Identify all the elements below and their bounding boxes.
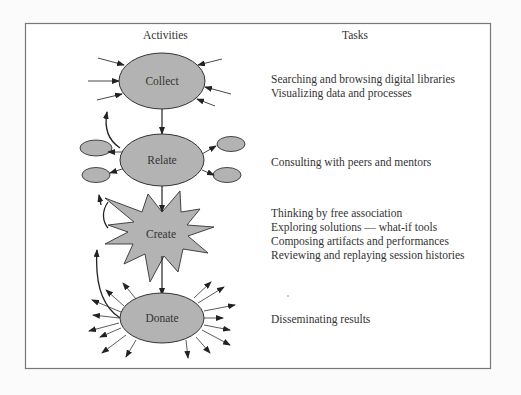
task-item: Composing artifacts and performances xyxy=(271,234,465,248)
task-item: Exploring solutions — what-if tools xyxy=(271,220,465,234)
relate-label: Relate xyxy=(147,154,176,166)
donate-tasks: Disseminating results xyxy=(271,312,370,326)
relate-tasks: Consulting with peers and mentors xyxy=(271,155,431,169)
task-item: Reviewing and replaying session historie… xyxy=(271,248,465,262)
collect-tasks: Searching and browsing digital libraries… xyxy=(271,72,455,100)
create-tasks: Thinking by free association Exploring s… xyxy=(271,206,465,262)
tasks-header: Tasks xyxy=(342,29,368,41)
task-item: Visualizing data and processes xyxy=(271,86,455,100)
task-item: Consulting with peers and mentors xyxy=(271,155,431,169)
activities-header: Activities xyxy=(143,29,188,41)
task-item: Thinking by free association xyxy=(271,206,465,220)
activities-diagram: Collect Relate Create xyxy=(0,0,521,395)
collect-label: Collect xyxy=(145,75,179,87)
task-item: Disseminating results xyxy=(271,312,370,326)
donate-label: Donate xyxy=(145,312,178,324)
create-label: Create xyxy=(146,228,176,240)
task-item: Searching and browsing digital libraries xyxy=(271,72,455,86)
